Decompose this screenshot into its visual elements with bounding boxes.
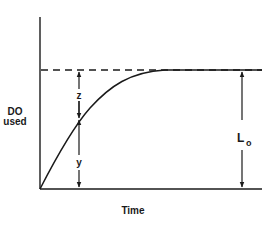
y-label: y (76, 157, 82, 168)
bod-diagram: z y L o DO used Time (0, 0, 276, 230)
z-label: z (77, 90, 82, 101)
l0-label: L (237, 131, 244, 145)
y-axis-label-line2: used (3, 116, 26, 127)
x-axis-label: Time (121, 205, 145, 216)
bod-curve (40, 70, 262, 189)
l0-subscript: o (246, 138, 252, 148)
